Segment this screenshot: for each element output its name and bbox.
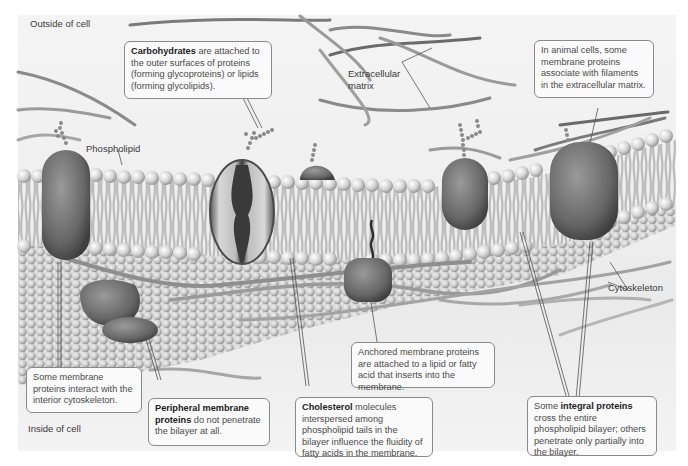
outside-of-cell-label: Outside of cell [30, 18, 90, 30]
extracellular-matrix-label-line1: Extracellular [348, 68, 400, 80]
integral-protein-left [42, 150, 90, 260]
integral-protein-large [550, 142, 618, 240]
channel-protein [210, 160, 274, 264]
integral-protein-right-small [442, 158, 488, 230]
callout-cholesterol-term: Cholesterol [302, 402, 353, 412]
callout-cytoskeleton-interaction-text: Some membrane proteins interact with the… [33, 372, 133, 405]
callout-ecm-association: In animal cells, some membrane proteins … [534, 40, 654, 98]
callout-integral-pre: Some [534, 401, 561, 411]
callout-anchored-text: Anchored membrane proteins are attached … [358, 347, 479, 392]
partial-integral-protein [300, 166, 335, 180]
carbohydrate-chain-left [54, 121, 68, 145]
callout-peripheral-proteins: Peripheral membrane proteins do not pene… [148, 398, 270, 446]
callout-integral-proteins: Some integral proteins cross the entire … [527, 396, 657, 456]
carbohydrate-chain-mid [310, 143, 317, 162]
callout-cholesterol: Cholesterol molecules interspersed among… [295, 397, 433, 457]
callout-carbohydrates-term: Carbohydrates [131, 46, 196, 56]
carbohydrate-chain-channel [244, 128, 274, 150]
callout-ecm-association-text: In animal cells, some membrane proteins … [541, 45, 646, 90]
callout-cytoskeleton-interaction: Some membrane proteins interact with the… [26, 367, 142, 413]
cytoskeleton-label: Cytoskeleton [608, 282, 663, 294]
callout-carbohydrates: Carbohydrates are attached to the outer … [124, 41, 272, 99]
extracellular-matrix-label-line2: matrix [348, 80, 374, 92]
inside-of-cell-label: Inside of cell [28, 423, 81, 435]
callout-anchored-proteins: Anchored membrane proteins are attached … [351, 342, 495, 388]
callout-integral-term: integral proteins [561, 401, 633, 411]
phospholipid-label: Phospholipid [86, 143, 140, 155]
callout-integral-text: cross the entire phospholipid bilayer; o… [534, 413, 646, 458]
